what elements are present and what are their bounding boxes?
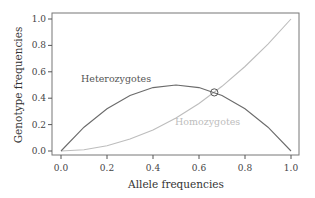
x-axis-label: Allele frequencies [127, 178, 224, 190]
x-tick-label: 0.2 [100, 163, 114, 173]
y-tick-label: 1.0 [32, 14, 47, 24]
plot-frame [52, 13, 299, 155]
x-tick-label: 0.6 [192, 163, 207, 173]
y-tick-labels: 0.0 0.2 0.4 0.6 0.8 1.0 [32, 14, 47, 156]
x-axis [61, 155, 291, 159]
y-tick-label: 0.8 [32, 40, 47, 50]
y-axis [48, 19, 52, 151]
x-tick-label: 0.0 [54, 163, 69, 173]
chart: 0.0 0.2 0.4 0.6 0.8 1.0 0.0 0.2 0.4 0.6 … [0, 0, 315, 198]
heterozygotes-label: Heterozygotes [81, 73, 151, 84]
x-tick-labels: 0.0 0.2 0.4 0.6 0.8 1.0 [54, 163, 299, 173]
y-tick-label: 0.6 [32, 67, 47, 77]
x-tick-label: 0.4 [146, 163, 161, 173]
x-tick-label: 0.8 [238, 163, 253, 173]
y-tick-label: 0.2 [32, 120, 46, 130]
y-tick-label: 0.4 [32, 93, 47, 103]
y-axis-label: Genotype frequencies [12, 27, 24, 144]
x-tick-label: 1.0 [284, 163, 299, 173]
y-tick-label: 0.0 [32, 146, 47, 156]
homozygotes-label: Homozygotes [175, 116, 240, 127]
